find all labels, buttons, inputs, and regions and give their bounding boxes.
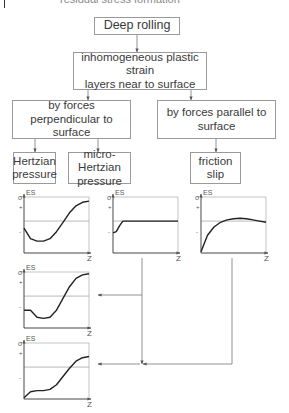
chart-hertzian_plus_micro: ESσ+-Z: [18, 264, 92, 338]
chart-micro_hertzian: ESσ+-Z: [107, 189, 181, 263]
svg-text:-: -: [19, 304, 21, 310]
stress-charts: ESσ+-ZESσ+-ZESσ+-ZESσ+-ZESσ+-Z: [18, 189, 269, 409]
connector-arrows: [35, 35, 232, 364]
svg-text:ES: ES: [26, 335, 36, 342]
diagram-canvas: ESσ+-ZESσ+-ZESσ+-ZESσ+-ZESσ+-Z: [0, 0, 289, 413]
stress-curve: [201, 218, 266, 251]
svg-text:+: +: [196, 204, 200, 210]
svg-text:Z: Z: [264, 254, 269, 263]
svg-text:σ: σ: [18, 340, 23, 347]
svg-text:σ: σ: [195, 194, 200, 201]
svg-text:+: +: [108, 204, 112, 210]
stress-curve: [113, 221, 178, 233]
chart-friction: ESσ+-Z: [195, 189, 269, 263]
svg-text:+: +: [19, 204, 23, 210]
svg-text:-: -: [19, 375, 21, 381]
svg-text:-: -: [108, 229, 110, 235]
svg-text:-: -: [19, 229, 21, 235]
chart-hertzian: ESσ+-Z: [18, 189, 92, 263]
svg-text:ES: ES: [26, 264, 36, 271]
svg-text:+: +: [19, 279, 23, 285]
svg-text:Z: Z: [87, 254, 92, 263]
svg-text:-: -: [196, 229, 198, 235]
svg-text:ES: ES: [26, 189, 36, 196]
svg-text:+: +: [19, 350, 23, 356]
svg-text:σ: σ: [107, 194, 112, 201]
svg-text:σ: σ: [18, 194, 23, 201]
svg-text:Z: Z: [87, 329, 92, 338]
svg-text:ES: ES: [203, 189, 213, 196]
svg-text:Z: Z: [176, 254, 181, 263]
svg-text:Z: Z: [87, 400, 92, 409]
svg-text:σ: σ: [18, 269, 23, 276]
svg-text:ES: ES: [115, 189, 125, 196]
chart-all_combined: ESσ+-Z: [18, 335, 92, 409]
stress-curve: [24, 357, 89, 398]
